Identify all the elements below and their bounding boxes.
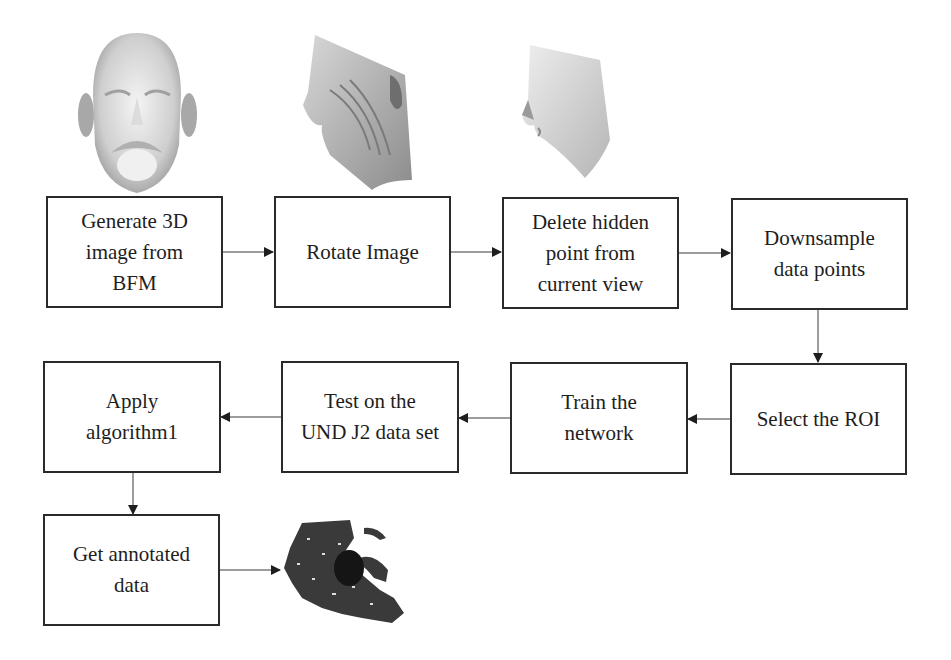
step-label: Delete hidden point from current view	[532, 207, 649, 300]
step-label: Train the network	[561, 387, 637, 449]
step-apply-algorithm1: Apply algorithm1	[43, 361, 221, 473]
step-label: Test on the UND J2 data set	[301, 386, 439, 448]
step-downsample: Downsample data points	[731, 198, 908, 310]
step-get-annotated-data: Get annotated data	[43, 514, 220, 626]
step-label: Rotate Image	[306, 237, 419, 268]
step-label: Get annotated data	[73, 539, 190, 601]
step-generate-3d-image: Generate 3D image from BFM	[46, 196, 223, 308]
step-test-und-j2: Test on the UND J2 data set	[281, 361, 459, 473]
step-label: Generate 3D image from BFM	[81, 206, 188, 299]
step-rotate-image: Rotate Image	[274, 196, 451, 308]
step-delete-hidden-point: Delete hidden point from current view	[502, 197, 679, 309]
step-train-network: Train the network	[510, 362, 688, 474]
step-label: Apply algorithm1	[86, 386, 178, 448]
step-label: Downsample data points	[764, 223, 875, 285]
step-label: Select the ROI	[757, 404, 881, 435]
step-select-roi: Select the ROI	[730, 363, 907, 475]
